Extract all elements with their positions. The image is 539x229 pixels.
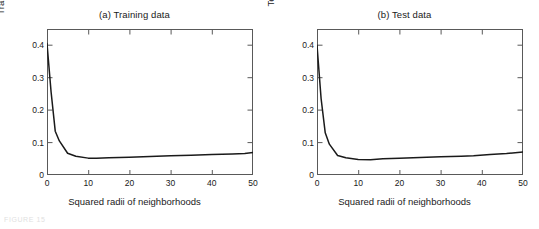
x-axis-label-a: Squared radii of neighborhoods <box>10 196 259 207</box>
x-tick-label: 50 <box>241 179 265 188</box>
y-tick-label: 0.3 <box>294 74 314 82</box>
panel-title-a: (a) Training data <box>0 9 269 20</box>
x-axis-label-b: Squared radii of neighborhoods <box>280 196 529 207</box>
line-chart-svg-b <box>317 29 523 175</box>
y-tick-labels-a: 00.10.20.30.4 <box>22 29 44 175</box>
y-axis-label-a: Training errors <box>0 0 8 57</box>
x-tick-label: 20 <box>387 179 411 188</box>
x-tick-label: 10 <box>76 179 100 188</box>
plot-area-a <box>47 29 253 175</box>
x-tick-label: 20 <box>117 179 141 188</box>
x-tick-label: 30 <box>159 179 183 188</box>
x-tick-label: 0 <box>35 179 59 188</box>
y-axis-label-b: Test errors <box>264 0 278 57</box>
line-chart-svg-a <box>47 29 253 175</box>
y-tick-label: 0.1 <box>24 139 44 147</box>
x-tick-label: 50 <box>511 179 535 188</box>
figure-container: (a) Training data Training errors 00.10.… <box>0 0 539 229</box>
chart-panel-test: (b) Test data Test errors 00.10.20.30.4 <box>270 0 539 215</box>
y-tick-label: 0.3 <box>24 74 44 82</box>
figure-caption-fragment: FIGURE 15 <box>4 216 46 225</box>
axes-box-b <box>318 30 523 175</box>
data-line-b <box>317 45 523 160</box>
x-tick-label: 10 <box>346 179 370 188</box>
data-line-a <box>47 44 253 159</box>
x-tick-label: 30 <box>429 179 453 188</box>
y-tick-label: 0.4 <box>294 41 314 49</box>
chart-panel-training: (a) Training data Training errors 00.10.… <box>0 0 269 215</box>
tick-marks-a <box>48 30 253 176</box>
panel-title-b: (b) Test data <box>270 9 539 20</box>
x-tick-label: 0 <box>305 179 329 188</box>
y-tick-label: 0.4 <box>24 41 44 49</box>
plot-area-b <box>317 29 523 175</box>
y-tick-label: 0.1 <box>294 139 314 147</box>
y-tick-label: 0.2 <box>24 106 44 114</box>
x-tick-label: 40 <box>470 179 494 188</box>
y-tick-label: 0 <box>294 171 314 179</box>
y-tick-label: 0 <box>24 171 44 179</box>
y-tick-labels-b: 00.10.20.30.4 <box>292 29 314 175</box>
y-tick-label: 0.2 <box>294 106 314 114</box>
x-tick-label: 40 <box>200 179 224 188</box>
x-tick-labels-a: 01020304050 <box>47 179 253 191</box>
x-tick-labels-b: 01020304050 <box>317 179 523 191</box>
tick-marks-b <box>318 30 523 176</box>
axes-box-a <box>48 30 253 175</box>
